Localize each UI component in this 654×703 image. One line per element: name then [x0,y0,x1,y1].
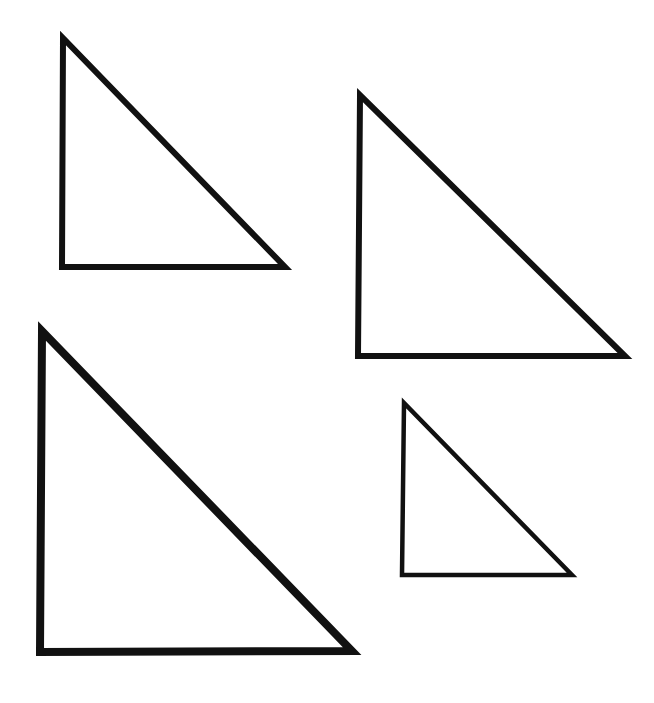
canvas-background [0,0,654,703]
triangles-drawing [0,0,654,703]
figure-canvas [0,0,654,703]
